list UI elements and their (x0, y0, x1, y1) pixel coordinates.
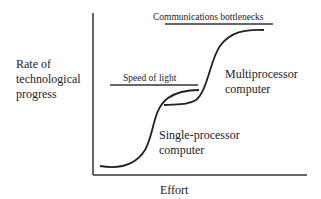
y-axis-label: Rate of technological progress (16, 57, 81, 102)
multiprocessor-label: Multiprocessor computer (225, 67, 298, 97)
communications-bottlenecks-label: Communications bottlenecks (153, 10, 264, 25)
single-processor-label: Single-processor computer (159, 128, 240, 158)
speed-of-light-label: Speed of light (123, 71, 176, 86)
x-axis-label: Effort (160, 183, 188, 198)
